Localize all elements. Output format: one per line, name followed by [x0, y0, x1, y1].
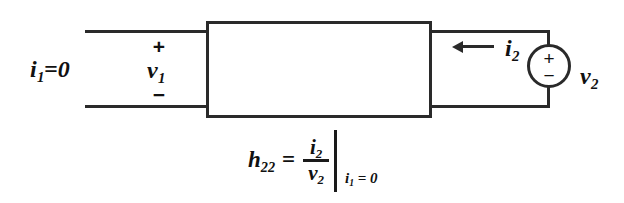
left-top-wire: [85, 30, 207, 33]
input-polarity-plus: +: [146, 36, 172, 57]
numerator-subscript: 2: [316, 146, 323, 161]
left-bottom-wire: [85, 105, 207, 108]
two-port-network-block: [206, 21, 432, 118]
circuit-diagram-canvas: i1=0 + v1 − i2 + − v2 h22 = i2 v2 i1 = 0: [0, 0, 624, 203]
denominator-subscript: 2: [318, 172, 325, 187]
equation-condition: i1 = 0: [345, 170, 378, 187]
denominator-symbol: v: [308, 161, 317, 185]
condition-value: = 0: [358, 170, 378, 186]
equation-fraction: i2 v2: [303, 136, 329, 185]
numerator-symbol: i: [310, 135, 316, 159]
voltage-source-symbol: + −: [527, 44, 571, 88]
input-polarity-minus: −: [146, 84, 172, 105]
equation-numerator: i2: [307, 136, 325, 159]
input-voltage-label: v1: [147, 58, 165, 82]
input-current-value: =0: [44, 56, 70, 82]
right-bottom-wire: [430, 105, 550, 108]
input-current-label: i1=0: [30, 57, 70, 81]
output-voltage-label: v2: [580, 64, 598, 88]
output-voltage-symbol: v: [580, 63, 591, 89]
equation-evaluation-bar: [334, 130, 337, 192]
equation-equals-sign: =: [282, 147, 295, 173]
input-voltage-symbol: v: [147, 57, 158, 83]
equation-lhs-symbol: h: [248, 147, 261, 172]
right-top-wire: [430, 30, 550, 33]
output-voltage-subscript: 2: [591, 76, 598, 92]
output-current-subscript: 2: [512, 48, 519, 64]
output-current-symbol: i: [505, 35, 512, 61]
equation-denominator: v2: [305, 162, 327, 185]
output-current-arrow-shaft: [462, 45, 494, 48]
output-current-label: i2: [505, 36, 519, 60]
h22-equation: h22 = i2 v2: [248, 128, 337, 192]
input-current-subscript: 1: [37, 69, 44, 85]
output-current-arrow-head: [452, 41, 463, 53]
source-minus-sign: −: [530, 66, 568, 85]
source-bottom-lead: [547, 85, 550, 108]
input-current-symbol: i: [30, 56, 37, 82]
equation-lhs-subscript: 22: [261, 159, 275, 175]
equation-lhs: h22: [248, 147, 275, 173]
condition-subscript: 1: [349, 177, 354, 188]
